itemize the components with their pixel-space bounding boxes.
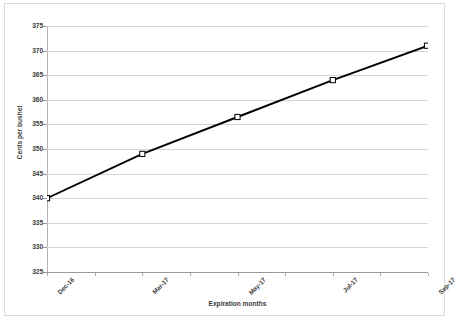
x-tick-label: Mar-17: [151, 276, 170, 295]
y-tick-label: 330: [17, 243, 43, 250]
y-tick-label: 325: [17, 268, 43, 275]
data-series-line: [47, 26, 428, 272]
x-tick-label: Sep-17: [437, 276, 456, 295]
x-tick-label: May-17: [247, 276, 267, 296]
x-tick-mark: [190, 273, 191, 276]
y-tick-label: 340: [17, 194, 43, 201]
y-tick-label: 365: [17, 71, 43, 78]
y-tick-label: 335: [17, 219, 43, 226]
y-tick-label: 375: [17, 22, 43, 29]
x-tick-mark: [428, 273, 429, 276]
x-tick-mark: [142, 273, 143, 276]
x-tick-mark: [380, 273, 381, 276]
y-tick-label: 370: [17, 47, 43, 54]
x-tick-mark: [238, 273, 239, 276]
y-axis-title: Cents per bushel: [16, 83, 23, 183]
x-axis-title: Expiration months: [47, 300, 428, 307]
x-tick-label: Dec-16: [56, 276, 75, 295]
x-tick-label: Jul-17: [341, 276, 359, 294]
x-tick-mark: [333, 273, 334, 276]
x-tick-mark: [285, 273, 286, 276]
x-tick-mark: [95, 273, 96, 276]
chart-object-frame: 375 370 365 360 355 350 345 340 335 330 …: [4, 3, 445, 316]
x-tick-mark: [47, 273, 48, 276]
